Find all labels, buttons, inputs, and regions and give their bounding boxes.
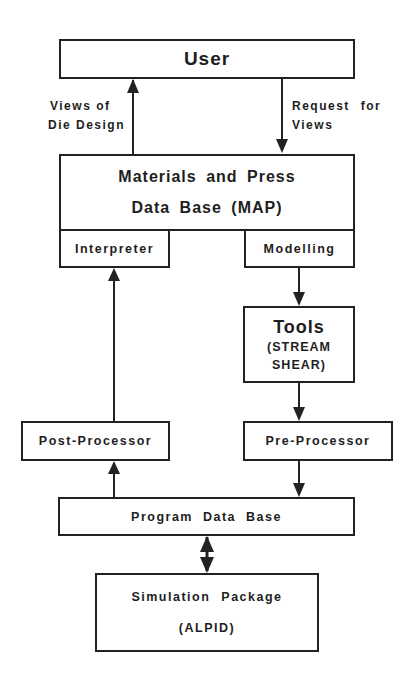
node-tools: Tools (STREAM SHEAR) — [243, 306, 355, 383]
node-interpreter: Interpreter — [59, 229, 170, 268]
node-tools-title: Tools — [273, 316, 325, 338]
node-program-database-label: Program Data Base — [131, 510, 282, 524]
node-modelling: Modelling — [244, 229, 355, 268]
node-post-processor-label: Post-Processor — [39, 434, 152, 448]
node-simulation-line2: (ALPID) — [179, 621, 235, 635]
node-simulation-line1: Simulation Package — [131, 590, 282, 604]
node-pre-processor: Pre-Processor — [243, 421, 393, 461]
node-materials-press-database: Materials and Press Data Base (MAP) — [59, 154, 355, 231]
node-interpreter-label: Interpreter — [75, 242, 154, 256]
node-tools-line1: (STREAM — [267, 338, 331, 356]
node-tools-line2: SHEAR) — [272, 356, 326, 374]
edge-label-views-of-die-design: Views of Die Design — [48, 97, 125, 135]
edge-label-line: Request for — [292, 97, 381, 116]
node-pre-processor-label: Pre-Processor — [266, 434, 371, 448]
edge-label-request-for-views: Request for Views — [292, 97, 381, 135]
node-post-processor: Post-Processor — [21, 421, 170, 461]
node-user-label: User — [184, 48, 230, 70]
node-user: User — [59, 39, 355, 79]
edge-label-line: Die Design — [48, 116, 125, 135]
node-map-line1: Materials and Press — [118, 168, 295, 186]
node-simulation-package: Simulation Package (ALPID) — [95, 573, 319, 652]
node-map-line2: Data Base (MAP) — [131, 199, 282, 217]
node-modelling-label: Modelling — [264, 242, 336, 256]
edge-label-line: Views of — [48, 97, 125, 116]
node-program-database: Program Data Base — [58, 497, 355, 536]
edge-label-line: Views — [292, 116, 381, 135]
